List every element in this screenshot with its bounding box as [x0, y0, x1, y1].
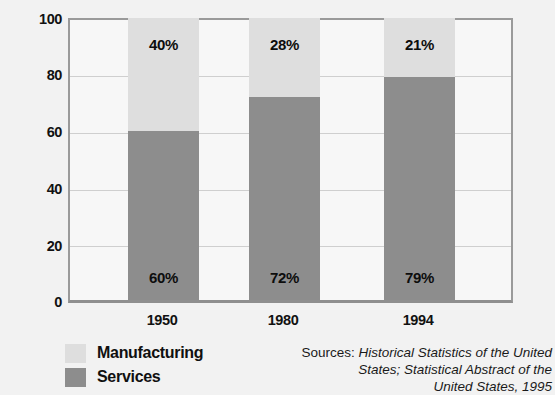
bar-1980[interactable]: 28% 72% — [249, 18, 320, 300]
sources-lead: Sources: — [301, 345, 354, 360]
plot-area: 40% 60% 28% 72% 21% 79% — [68, 18, 513, 303]
bar-1950-manufacturing[interactable]: 40% — [128, 18, 199, 131]
bar-1950-services-label: 60% — [128, 269, 199, 286]
bar-1950[interactable]: 40% 60% — [128, 18, 199, 300]
bar-1994-services-label: 79% — [384, 269, 455, 286]
bar-1980-manufacturing-label: 28% — [249, 36, 320, 53]
y-tick-100: 100 — [12, 11, 62, 27]
y-axis: Percent 100 80 60 40 20 0 — [10, 0, 62, 392]
y-tick-40: 40 — [12, 181, 62, 197]
sources-line-3: United States, 1995 — [433, 379, 552, 394]
x-tick-1980: 1980 — [223, 312, 343, 328]
sources-line-1: Historical Statistics of the United — [358, 345, 552, 360]
bar-1950-manufacturing-label: 40% — [128, 36, 199, 53]
chart-legend: Manufacturing Services — [65, 341, 203, 389]
legend-item-services[interactable]: Services — [65, 365, 203, 389]
bar-1994-services[interactable]: 79% — [384, 77, 455, 300]
x-tick-1950: 1950 — [102, 312, 222, 328]
bar-1980-services-label: 72% — [249, 269, 320, 286]
bar-1950-services[interactable]: 60% — [128, 131, 199, 300]
sources-line-2: States; Statistical Abstract of the — [358, 362, 552, 377]
legend-item-manufacturing[interactable]: Manufacturing — [65, 341, 203, 365]
y-axis-title: Percent — [0, 88, 2, 140]
bar-1994-manufacturing-label: 21% — [384, 36, 455, 53]
legend-label-manufacturing: Manufacturing — [97, 344, 203, 362]
y-tick-20: 20 — [12, 238, 62, 254]
bar-1980-services[interactable]: 72% — [249, 97, 320, 300]
y-tick-60: 60 — [12, 124, 62, 140]
legend-swatch-manufacturing-icon — [65, 344, 86, 363]
legend-swatch-services-icon — [65, 368, 86, 387]
sources-note: Sources: Historical Statistics of the Un… — [288, 344, 552, 395]
bar-1994-manufacturing[interactable]: 21% — [384, 18, 455, 77]
bar-1980-manufacturing[interactable]: 28% — [249, 18, 320, 97]
y-tick-80: 80 — [12, 67, 62, 83]
y-tick-0: 0 — [12, 294, 62, 310]
x-tick-1994: 1994 — [358, 312, 478, 328]
bar-1994[interactable]: 21% 79% — [384, 18, 455, 300]
legend-label-services: Services — [97, 368, 160, 386]
